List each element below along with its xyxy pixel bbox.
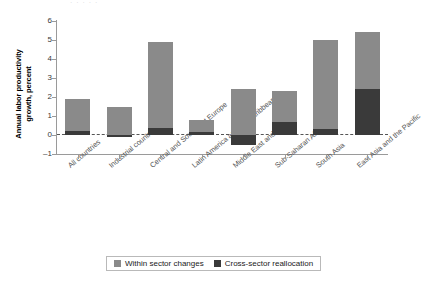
- bar-segment-cross-sector[interactable]: [231, 135, 256, 145]
- bar-segment-within-sector[interactable]: [313, 40, 338, 129]
- bar-segment-cross-sector[interactable]: [189, 132, 214, 135]
- bar-segment-within-sector[interactable]: [65, 99, 90, 131]
- x-tick-mark: [243, 155, 244, 159]
- x-tick-mark: [326, 155, 327, 159]
- bar-group[interactable]: [65, 0, 90, 289]
- x-tick-mark: [202, 155, 203, 159]
- bar-segment-within-sector[interactable]: [148, 42, 173, 128]
- y-tick-label: 5: [38, 35, 52, 44]
- bar-segment-cross-sector[interactable]: [272, 122, 297, 135]
- y-tick-label: 2: [38, 92, 52, 101]
- y-tick-label: 6: [38, 16, 52, 25]
- bar-segment-within-sector[interactable]: [107, 107, 132, 136]
- x-tick-mark: [78, 155, 79, 159]
- bar-group[interactable]: [272, 0, 297, 289]
- bar-segment-cross-sector[interactable]: [355, 89, 380, 135]
- bar-group[interactable]: [231, 0, 256, 289]
- bar-segment-within-sector[interactable]: [355, 32, 380, 89]
- legend-swatch-icon: [214, 260, 221, 267]
- y-tick-label: 4: [38, 54, 52, 63]
- y-tick-label: 0: [38, 130, 52, 139]
- y-tick-label: –1: [38, 149, 52, 158]
- bar-segment-cross-sector[interactable]: [107, 135, 132, 137]
- bar-segment-cross-sector[interactable]: [65, 131, 90, 135]
- x-tick-mark: [119, 155, 120, 159]
- x-tick-mark: [367, 155, 368, 159]
- y-axis-ticks: 6543210–1: [0, 0, 52, 289]
- bar-group[interactable]: [355, 0, 380, 289]
- bar-segment-within-sector[interactable]: [189, 120, 214, 132]
- legend-item[interactable]: Cross-sector reallocation: [214, 259, 313, 268]
- y-tick-label: 3: [38, 73, 52, 82]
- bar-group[interactable]: [107, 0, 132, 289]
- bar-segment-cross-sector[interactable]: [313, 129, 338, 135]
- bar-segment-cross-sector[interactable]: [148, 128, 173, 135]
- x-tick-mark: [285, 155, 286, 159]
- bar-group[interactable]: [313, 0, 338, 289]
- y-tick-label: 1: [38, 111, 52, 120]
- x-tick-mark: [160, 155, 161, 159]
- bar-segment-within-sector[interactable]: [272, 91, 297, 121]
- bar-segment-within-sector[interactable]: [231, 89, 256, 135]
- bar-group[interactable]: [148, 0, 173, 289]
- bar-group[interactable]: [189, 0, 214, 289]
